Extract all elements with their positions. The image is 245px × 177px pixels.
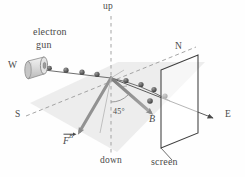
b-field-label: B	[149, 114, 155, 125]
vector-arrow-icon	[63, 132, 77, 136]
electron-gun	[25, 57, 48, 79]
up-label: up	[103, 2, 113, 12]
angle-label: 45°	[113, 108, 125, 116]
screen-plane	[161, 55, 198, 148]
force-symbol: F	[63, 135, 69, 146]
down-label: down	[100, 156, 122, 166]
east-label: E	[225, 110, 231, 120]
force-vector-label: F B	[63, 130, 73, 148]
south-label: S	[15, 110, 20, 120]
physics-diagram-figure: electron gun up down N S E W screen 45° …	[0, 0, 245, 177]
screen-label: screen	[151, 157, 178, 168]
electron-gun-label-line2: gun	[36, 40, 52, 51]
electron-gun-label-line1: electron	[33, 27, 67, 38]
west-label: W	[8, 61, 17, 71]
north-label: N	[175, 42, 182, 52]
